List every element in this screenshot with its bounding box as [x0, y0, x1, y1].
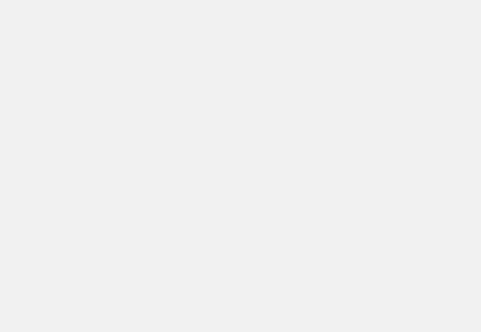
bounding-frame: [28, 23, 216, 144]
frame-border: [28, 23, 216, 144]
panel-frame: [27, 22, 216, 144]
outer-frame: [28, 23, 216, 145]
diagram-box: [28, 23, 216, 144]
frame: [28, 23, 218, 145]
diagram-border: [28, 23, 215, 145]
box: [28, 23, 218, 145]
outline: [28, 23, 218, 145]
frame-main: [28, 23, 216, 144]
figure-box: [28, 23, 218, 145]
main-frame: [28, 23, 218, 145]
figure-border: [28, 23, 218, 145]
border-box: [28, 23, 218, 145]
frame-rect: [28, 23, 217, 145]
figure-frame: [28, 23, 218, 145]
frame-border-visible: [28, 23, 216, 144]
diagram-canvas: [0, 0, 481, 332]
frame-outline: [28, 23, 218, 145]
